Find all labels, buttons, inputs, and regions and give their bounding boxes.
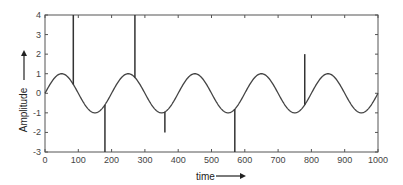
y-tick-label: -3 <box>33 147 41 157</box>
x-tick-label: 300 <box>137 155 152 165</box>
x-tick-label: 200 <box>104 155 119 165</box>
y-tick-label: 0 <box>36 88 41 98</box>
plot-frame <box>45 15 378 152</box>
y-tick-label: 2 <box>36 49 41 59</box>
y-tick-label: 4 <box>36 10 41 20</box>
x-tick-label: 0 <box>42 155 47 165</box>
x-axis-label: time <box>196 171 215 182</box>
y-tick-label: -2 <box>33 127 41 137</box>
x-tick-label: 1000 <box>368 155 388 165</box>
x-tick-label: 900 <box>337 155 352 165</box>
y-tick-label: 1 <box>36 69 41 79</box>
y-tick-label: -1 <box>33 108 41 118</box>
y-tick-label: 3 <box>36 30 41 40</box>
x-tick-label: 800 <box>304 155 319 165</box>
x-tick-label: 500 <box>204 155 219 165</box>
x-tick-label: 100 <box>71 155 86 165</box>
y-axis-label: Amplitude <box>18 87 29 132</box>
y-axis-arrow-icon <box>21 50 27 80</box>
chart: -3-2-101234 0100200300400500600700800900… <box>0 0 403 185</box>
x-tick-label: 600 <box>237 155 252 165</box>
plot-area <box>45 15 378 152</box>
x-tick-label: 400 <box>171 155 186 165</box>
x-tick-label: 700 <box>271 155 286 165</box>
x-axis-arrow-icon <box>216 173 246 179</box>
